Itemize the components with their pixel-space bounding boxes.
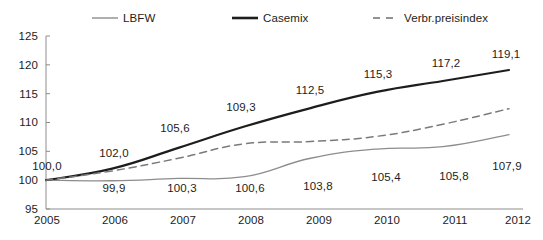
data-label-casemix-2007: 105,6 — [155, 122, 195, 134]
x-tick-2010: 2010 — [363, 214, 411, 226]
data-label-lbfw-2012: 107,9 — [487, 160, 527, 172]
y-tick-100: 100 — [8, 174, 38, 186]
y-tick-115: 115 — [8, 88, 38, 100]
y-tick-120: 120 — [8, 59, 38, 71]
x-tick-2011: 2011 — [431, 214, 479, 226]
y-tick-110: 110 — [8, 116, 38, 128]
x-tick-2006: 2006 — [91, 214, 139, 226]
data-label-lbfw-2009: 103,8 — [298, 180, 338, 192]
data-label-casemix-2012: 119,1 — [486, 48, 526, 60]
y-tick-105: 105 — [8, 145, 38, 157]
data-label-casemix-2009: 112,5 — [290, 84, 330, 96]
data-label-lbfw-2006: 99,9 — [94, 182, 134, 194]
y-tick-95: 95 — [8, 203, 38, 215]
x-tick-2007: 2007 — [159, 214, 207, 226]
x-tick-2008: 2008 — [227, 214, 275, 226]
data-label-casemix-2005: 100,0 — [27, 160, 67, 172]
data-label-lbfw-2010: 105,4 — [366, 171, 406, 183]
data-label-casemix-2010: 115,3 — [358, 68, 398, 80]
data-label-lbfw-2008: 100,6 — [230, 182, 270, 194]
data-label-casemix-2006: 102,0 — [94, 147, 134, 159]
x-tick-2012: 2012 — [494, 214, 542, 226]
data-label-lbfw-2011: 105,8 — [434, 170, 474, 182]
x-tick-2005: 2005 — [23, 214, 71, 226]
chart-plot-area — [0, 0, 543, 240]
data-label-lbfw-2007: 100,3 — [162, 182, 202, 194]
y-tick-125: 125 — [8, 30, 38, 42]
data-label-casemix-2008: 109,3 — [221, 101, 261, 113]
data-label-casemix-2011: 117,2 — [426, 57, 466, 69]
x-tick-2009: 2009 — [295, 214, 343, 226]
chart-container: LBFW Casemix Verbr.preisindex 125 120 11… — [0, 0, 543, 240]
